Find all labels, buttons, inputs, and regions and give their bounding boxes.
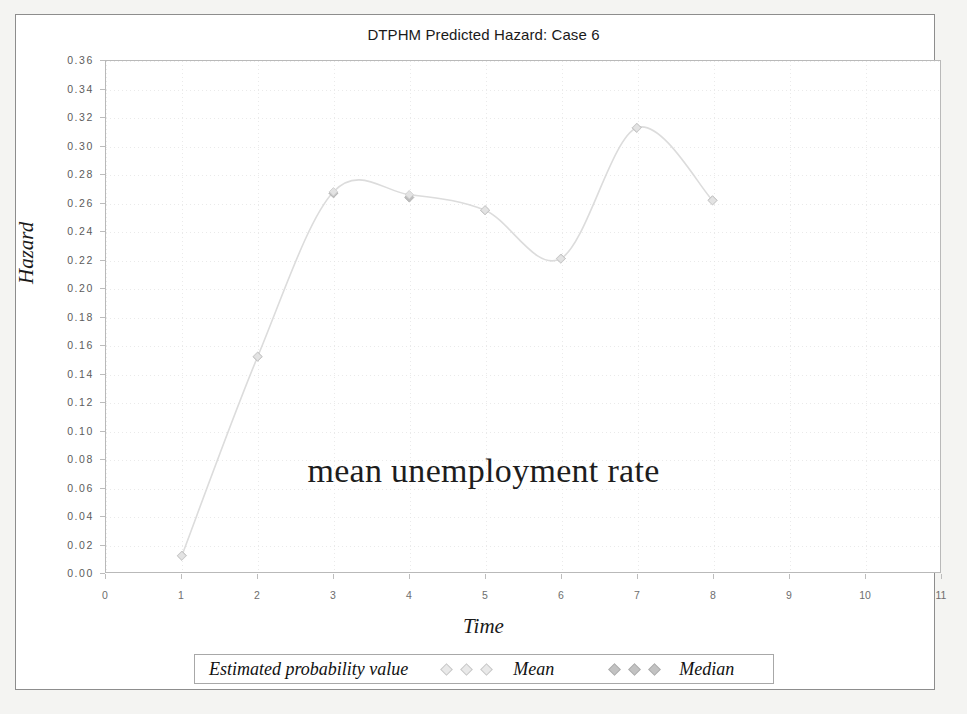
y-tick-label: 0.36 bbox=[42, 54, 94, 66]
y-tick-label: 0.34 bbox=[42, 83, 94, 95]
x-tick-label: 11 bbox=[921, 589, 961, 601]
y-tick-label: 0.22 bbox=[42, 254, 94, 266]
x-tick-mark bbox=[485, 574, 486, 579]
x-tick-label: 7 bbox=[617, 589, 657, 601]
x-tick-label: 9 bbox=[769, 589, 809, 601]
x-tick-mark bbox=[409, 574, 410, 579]
legend-median-markers bbox=[610, 665, 659, 674]
x-tick-mark bbox=[713, 574, 714, 579]
x-tick-mark bbox=[637, 574, 638, 579]
series-line-estimated-probability bbox=[182, 127, 713, 556]
x-tick-mark bbox=[181, 574, 182, 579]
x-tick-label: 2 bbox=[237, 589, 277, 601]
chart-legend: Estimated probability value Mean Median bbox=[194, 654, 774, 684]
x-tick-mark bbox=[865, 574, 866, 579]
y-tick-label: 0.26 bbox=[42, 197, 94, 209]
data-point-mean bbox=[633, 124, 641, 132]
diamond-filled-icon bbox=[628, 663, 641, 676]
x-tick-label: 0 bbox=[85, 589, 125, 601]
diamond-open-icon bbox=[480, 663, 493, 676]
x-tick-label: 4 bbox=[389, 589, 429, 601]
chart-page: DTPHM Predicted Hazard: Case 6 Hazard Ti… bbox=[0, 0, 967, 714]
plot-area bbox=[105, 60, 941, 573]
x-tick-label: 6 bbox=[541, 589, 581, 601]
x-tick-mark bbox=[333, 574, 334, 579]
x-axis-label: Time bbox=[0, 614, 967, 639]
y-axis-label: Hazard bbox=[14, 222, 39, 284]
y-tick-label: 0.32 bbox=[42, 111, 94, 123]
y-tick-label: 0.00 bbox=[42, 567, 94, 579]
y-tick-label: 0.10 bbox=[42, 425, 94, 437]
data-point-mean bbox=[178, 552, 186, 560]
data-point-mean bbox=[481, 206, 489, 214]
data-point-mean bbox=[253, 352, 261, 360]
x-tick-mark bbox=[561, 574, 562, 579]
y-tick-label: 0.30 bbox=[42, 140, 94, 152]
data-series-layer bbox=[106, 61, 940, 573]
y-tick-label: 0.20 bbox=[42, 282, 94, 294]
diamond-filled-icon bbox=[648, 663, 661, 676]
legend-mean-label: Mean bbox=[513, 659, 554, 680]
legend-mean-markers bbox=[442, 665, 491, 674]
page-title: DTPHM Predicted Hazard: Case 6 bbox=[0, 26, 967, 43]
x-tick-label: 5 bbox=[465, 589, 505, 601]
y-tick-label: 0.14 bbox=[42, 368, 94, 380]
x-tick-mark bbox=[105, 574, 106, 579]
y-tick-label: 0.12 bbox=[42, 396, 94, 408]
x-tick-mark bbox=[789, 574, 790, 579]
diamond-open-icon bbox=[440, 663, 453, 676]
diamond-open-icon bbox=[460, 663, 473, 676]
y-tick-label: 0.18 bbox=[42, 311, 94, 323]
y-tick-label: 0.04 bbox=[42, 510, 94, 522]
y-tick-label: 0.02 bbox=[42, 539, 94, 551]
legend-series-label: Estimated probability value bbox=[209, 659, 408, 680]
y-tick-label: 0.24 bbox=[42, 225, 94, 237]
diamond-filled-icon bbox=[608, 663, 621, 676]
x-tick-label: 8 bbox=[693, 589, 733, 601]
x-tick-label: 10 bbox=[845, 589, 885, 601]
x-tick-mark bbox=[257, 574, 258, 579]
y-tick-label: 0.28 bbox=[42, 168, 94, 180]
x-tick-label: 3 bbox=[313, 589, 353, 601]
chart-annotation: mean unemployment rate bbox=[0, 452, 967, 490]
legend-median-label: Median bbox=[679, 659, 734, 680]
x-tick-label: 1 bbox=[161, 589, 201, 601]
x-tick-mark bbox=[941, 574, 942, 579]
y-tick-label: 0.16 bbox=[42, 339, 94, 351]
